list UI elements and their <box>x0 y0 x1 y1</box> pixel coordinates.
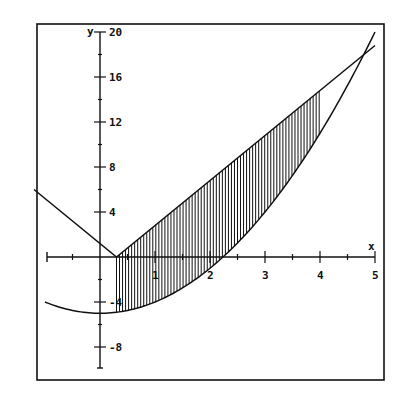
axes <box>47 32 375 368</box>
y-tick-label: -8 <box>109 341 122 354</box>
shaded-region <box>117 91 320 312</box>
x-tick-label: 3 <box>262 269 269 282</box>
y-axis-label: y <box>87 25 94 38</box>
y-tick-label: 8 <box>109 161 116 174</box>
x-tick-label: 4 <box>317 269 324 282</box>
x-tick-label: 1 <box>152 269 159 282</box>
area-between-curves-chart: 12345-8-448121620 x y <box>0 0 410 397</box>
y-tick-label: 20 <box>109 26 122 39</box>
y-tick-label: 4 <box>109 206 116 219</box>
y-tick-label: 16 <box>109 71 123 84</box>
x-axis-label: x <box>368 240 375 253</box>
x-tick-label: 2 <box>207 269 214 282</box>
x-tick-label: 5 <box>372 269 379 282</box>
y-tick-label: 12 <box>109 116 122 129</box>
y-tick-label: -4 <box>109 296 123 309</box>
